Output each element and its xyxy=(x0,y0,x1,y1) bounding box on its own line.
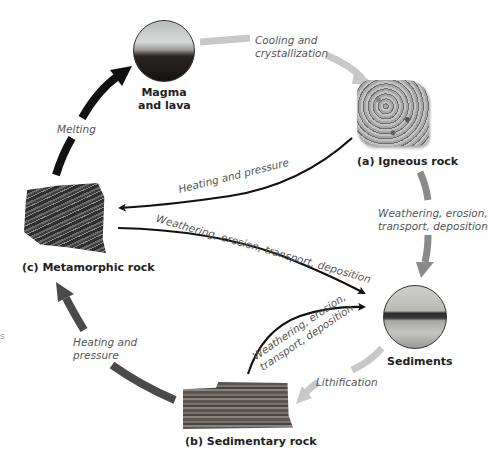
sedimentary-rock-image xyxy=(183,382,293,430)
igneous-rock-image xyxy=(357,80,429,146)
sediments-image xyxy=(383,285,447,349)
magma-label: Magma and lava xyxy=(138,86,190,112)
metamorphic-rock-label: (c) Metamorphic rock xyxy=(22,261,155,274)
melting-arrow xyxy=(56,66,132,175)
magma-image xyxy=(133,20,195,82)
igneous-rock-label: (a) Igneous rock xyxy=(357,155,458,168)
weathering-igneous-label: Weathering, erosion, transport, depositi… xyxy=(378,207,488,232)
lithification-label: Lithification xyxy=(316,376,378,389)
stray-text: s xyxy=(0,331,5,341)
sediments-label: Sediments xyxy=(387,355,453,368)
melting-label: Melting xyxy=(57,123,96,136)
cooling-label: Cooling and crystallization xyxy=(255,34,328,59)
sedimentary-rock-label: (b) Sedimentary rock xyxy=(185,435,316,448)
heating-sedimentary-label: Heating and pressure xyxy=(73,336,137,361)
